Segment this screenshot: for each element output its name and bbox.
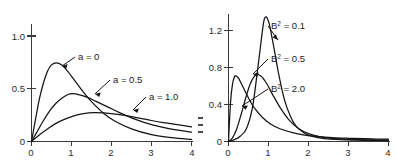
left-xtick-label-4: 4 (189, 147, 194, 158)
left-curve-label-a-1p0: a = 1.0 (149, 91, 178, 102)
curve-a-0 (32, 63, 192, 142)
right-xtick-label-1: 1 (265, 147, 270, 158)
b2-value-0p1: = 0.1 (281, 20, 305, 31)
left-xtick-label-2: 2 (108, 147, 113, 158)
left-xtick-label-0: 0 (28, 147, 33, 158)
right-xtick-label-2: 2 (305, 147, 310, 158)
chart-panel-right: 0 1 2 3 4 0 0.4 0.8 1.2 (198, 0, 396, 162)
left-x-ticks (32, 142, 192, 147)
left-ytick-label-1: 0.5 (12, 83, 25, 94)
right-xtick-label-0: 0 (225, 147, 230, 158)
right-x-ticks (229, 142, 389, 147)
b2-value-0p5: = 0.5 (281, 53, 305, 64)
left-ytick-label-0: 0 (20, 136, 25, 147)
left-leader-a-0p5 (95, 80, 110, 97)
left-curve-label-a-0p5: a = 0.5 (113, 74, 142, 85)
right-curve-label-b2-0p5: B2 = 0.5 (271, 53, 305, 65)
right-xtick-label-3: 3 (345, 147, 350, 158)
right-curve-label-b2-0p1: B2 = 0.1 (271, 20, 305, 32)
left-leader-a-1p0 (133, 97, 146, 113)
left-xtick-label-1: 1 (68, 147, 73, 158)
right-ytick-label-3: 1.2 (209, 25, 222, 36)
right-ytick-label-0: 0 (217, 136, 222, 147)
figure-container: 0 1 2 3 4 0 0.5 1.0 (0, 0, 396, 162)
left-ytick-label-2: 1.0 (12, 31, 25, 42)
right-leader-b2-0p5 (253, 59, 268, 77)
right-curve-label-b2-2p0: B2 = 2.0 (271, 83, 305, 95)
chart-panel-left: 0 1 2 3 4 0 0.5 1.0 (0, 0, 198, 162)
left-xtick-label-3: 3 (148, 147, 153, 158)
left-leader-a-0 (62, 57, 75, 68)
right-ytick-label-1: 0.4 (209, 99, 222, 110)
right-xtick-label-4: 4 (385, 147, 390, 158)
b2-value-2p0: = 2.0 (281, 83, 305, 94)
right-ytick-label-2: 0.8 (209, 62, 222, 73)
right-axes (228, 14, 390, 142)
edge-artifact-marks (198, 117, 203, 133)
left-curve-label-a-0: a = 0 (78, 51, 99, 62)
